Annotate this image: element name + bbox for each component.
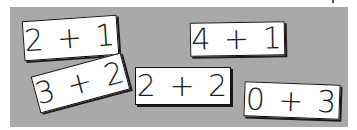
addition-card-2-plus-1: 2 + 1	[22, 15, 120, 62]
card-label: 2 + 1	[23, 20, 117, 56]
card-label: 2 + 2	[137, 71, 229, 101]
card-label: 4 + 1	[191, 23, 284, 55]
worksheet-figure: 2 + 1 3 + 2 2 + 2 4 + 1 0 + 3	[0, 0, 357, 130]
card-label: 0 + 3	[245, 84, 338, 117]
addition-card-4-plus-1: 4 + 1	[190, 21, 286, 57]
addition-card-0-plus-3: 0 + 3	[243, 81, 340, 119]
addition-card-2-plus-2: 2 + 2	[135, 67, 231, 105]
decorative-mark	[332, 0, 334, 3]
